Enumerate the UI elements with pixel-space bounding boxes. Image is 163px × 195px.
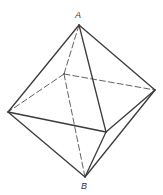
hidden-edge-A-K: [64, 25, 79, 74]
visible-edges: [8, 25, 155, 177]
edge-A-F: [79, 25, 106, 132]
octahedron-diagram: [0, 0, 163, 195]
edge-L-F: [8, 112, 106, 132]
vertex-label-A: A: [75, 11, 81, 20]
edge-R-B: [85, 90, 155, 177]
hidden-edge-K-L: [8, 74, 64, 112]
hidden-edge-K-R: [64, 74, 155, 90]
hidden-edges: [8, 25, 155, 177]
edge-A-L: [8, 25, 79, 112]
edge-A-R: [79, 25, 155, 90]
edge-F-R: [106, 90, 155, 132]
vertex-label-B: B: [81, 182, 87, 191]
